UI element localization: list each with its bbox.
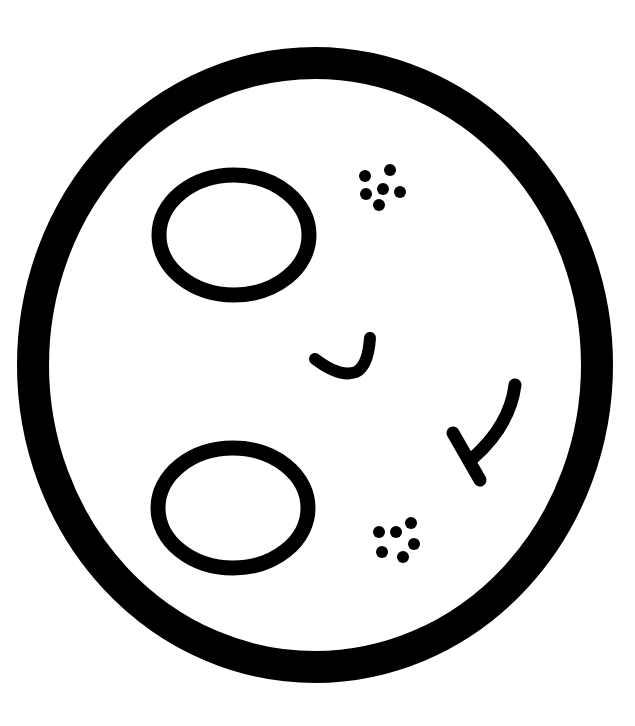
smile-stroke xyxy=(315,338,370,373)
upper-eye-oval xyxy=(159,175,309,295)
freckle-dot xyxy=(373,199,385,211)
freckle-dot xyxy=(408,538,420,550)
freckle-dot xyxy=(397,551,409,563)
freckle-dot xyxy=(384,164,396,176)
freckle-dot xyxy=(376,546,388,558)
freckle-dot xyxy=(394,186,406,198)
freckle-dot xyxy=(373,526,385,538)
freckle-dot xyxy=(377,183,389,195)
freckle-dot xyxy=(360,188,372,200)
freckle-dot xyxy=(390,526,402,538)
lower-freckles-cluster xyxy=(373,517,420,563)
lower-eye-oval xyxy=(158,448,308,568)
face-outline-icon xyxy=(0,0,635,726)
freckle-dot xyxy=(405,517,417,529)
freckle-dot xyxy=(359,170,371,182)
nose-curve-stroke xyxy=(473,385,515,458)
upper-freckles-cluster xyxy=(359,164,406,211)
face-illustration xyxy=(0,0,635,726)
